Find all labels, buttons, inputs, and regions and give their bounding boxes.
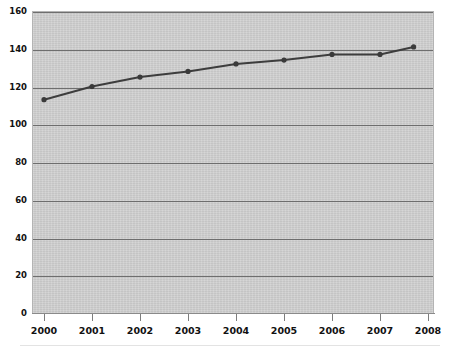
y-axis-tick-labels: 020406080100120140160 xyxy=(0,0,30,350)
gridline xyxy=(33,163,433,164)
x-tick-mark xyxy=(284,314,285,321)
gridline xyxy=(33,239,433,240)
x-tick-mark xyxy=(44,314,45,321)
x-tick-mark xyxy=(380,314,381,321)
x-tick-mark xyxy=(188,314,189,321)
x-tick-mark xyxy=(332,314,333,321)
y-tick-label: 100 xyxy=(0,120,27,128)
plot-area xyxy=(32,11,434,314)
y-tick-label: 60 xyxy=(0,196,27,204)
gridline xyxy=(33,88,433,89)
gridline xyxy=(33,276,433,277)
y-tick-label: 0 xyxy=(0,309,27,317)
y-tick-label: 140 xyxy=(0,45,27,53)
x-tick-label: 2008 xyxy=(398,326,451,336)
x-tick-mark xyxy=(92,314,93,321)
y-tick-label: 20 xyxy=(0,271,27,279)
gridline xyxy=(33,50,433,51)
x-tick-mark xyxy=(236,314,237,321)
y-tick-label: 40 xyxy=(0,234,27,242)
bottom-divider xyxy=(20,345,440,346)
y-tick-label: 160 xyxy=(0,7,27,15)
gridline xyxy=(33,125,433,126)
gridline xyxy=(33,201,433,202)
line-chart: 020406080100120140160 200020012002200320… xyxy=(0,0,451,350)
x-tick-mark xyxy=(140,314,141,321)
y-tick-label: 120 xyxy=(0,83,27,91)
gridline xyxy=(33,12,433,13)
x-tick-mark xyxy=(428,314,429,321)
y-tick-label: 80 xyxy=(0,158,27,166)
